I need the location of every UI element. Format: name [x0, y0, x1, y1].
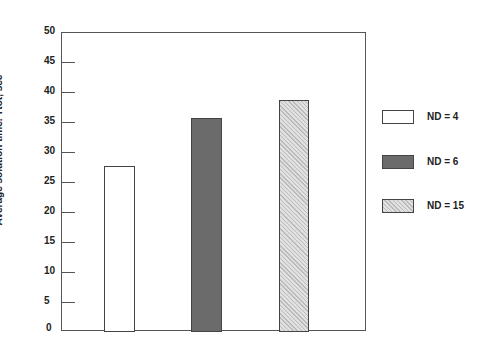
- y-tick: 25: [44, 175, 55, 186]
- legend-label: ND = 6: [427, 156, 458, 167]
- y-tick: 5: [44, 295, 50, 306]
- legend-swatch-nd-15: [382, 199, 414, 213]
- y-tick: 35: [44, 115, 55, 126]
- tick-mark: [62, 152, 75, 153]
- tick-mark: [62, 122, 75, 123]
- tick-mark: [62, 182, 75, 183]
- y-tick: 45: [44, 55, 55, 66]
- tick-mark: [62, 272, 75, 273]
- y-tick: 20: [44, 205, 55, 216]
- legend-swatch-nd-6: [382, 155, 414, 169]
- legend-swatch-nd-4: [382, 110, 414, 124]
- bar-nd-15: [279, 100, 309, 332]
- legend-label: ND = 4: [427, 111, 458, 122]
- y-tick: 30: [44, 145, 55, 156]
- y-tick: 15: [44, 235, 55, 246]
- y-tick: 10: [44, 265, 55, 276]
- bar-nd-4: [104, 166, 135, 332]
- tick-mark: [62, 242, 75, 243]
- legend-label: ND = 15: [427, 200, 464, 211]
- tick-mark: [62, 62, 75, 63]
- bar-nd-6: [191, 118, 222, 332]
- tick-mark: [62, 212, 75, 213]
- y-tick: 40: [44, 85, 55, 96]
- tick-mark: [62, 92, 75, 93]
- tick-mark: [62, 302, 75, 303]
- y-tick: 50: [44, 25, 55, 36]
- y-tick: 0: [46, 322, 52, 333]
